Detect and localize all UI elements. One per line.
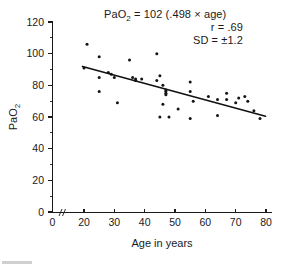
data-point: [225, 98, 228, 101]
scatter-plot-svg: PaO2 = 102 (.498 × age) r = .69 SD = ±1.…: [0, 0, 286, 267]
data-point: [189, 90, 192, 93]
data-point: [155, 79, 158, 82]
y-tick-label-60: 60: [32, 111, 44, 123]
data-point: [86, 43, 89, 46]
equation-rest: = 102 (.498 × age): [131, 8, 226, 20]
data-point: [161, 103, 164, 106]
y-tick-label-80: 80: [32, 79, 44, 91]
y-axis-title: PaO2: [7, 103, 22, 130]
data-point: [131, 76, 134, 79]
correlation-annotation: r = .69: [211, 21, 243, 33]
data-point: [192, 100, 195, 103]
data-point: [164, 93, 167, 96]
regression-line: [83, 66, 266, 116]
x-tick-label-40: 40: [139, 216, 151, 228]
x-axis: 0 20 30 40 50 60 70 80 Age in years: [50, 208, 272, 250]
x-tick-label-70: 70: [230, 216, 242, 228]
x-tick-label-0: 0: [50, 216, 56, 228]
y-tick-label-40: 40: [32, 142, 44, 154]
x-tick-label-60: 60: [199, 216, 211, 228]
data-point: [158, 116, 161, 119]
equation-prefix: PaO: [104, 8, 127, 20]
x-tick-label-80: 80: [260, 216, 272, 228]
data-point: [98, 90, 101, 93]
annotation-block: PaO2 = 102 (.498 × age) r = .69 SD = ±1.…: [104, 8, 243, 46]
data-point: [259, 117, 262, 120]
data-point: [158, 74, 161, 77]
chart-figure: PaO2 = 102 (.498 × age) r = .69 SD = ±1.…: [0, 0, 286, 267]
data-point: [216, 114, 219, 117]
data-point: [189, 81, 192, 84]
data-point: [207, 95, 210, 98]
data-point: [189, 117, 192, 120]
data-point: [128, 59, 131, 62]
y-tick-label-100: 100: [26, 47, 44, 59]
data-point: [116, 101, 119, 104]
y-axis: 120 100 80 60 40 20 0 PaO2: [7, 16, 53, 218]
y-tick-label-0: 0: [38, 206, 44, 218]
data-point: [246, 100, 249, 103]
data-point: [216, 98, 219, 101]
data-point: [168, 116, 171, 119]
std-dev-annotation: SD = ±1.2: [193, 34, 243, 46]
data-point: [225, 92, 228, 95]
y-tick-label-20: 20: [32, 174, 44, 186]
x-tick-label-50: 50: [169, 216, 181, 228]
scan-artifact: [2, 261, 32, 264]
y-tick-label-120: 120: [26, 16, 44, 28]
data-point: [140, 78, 143, 81]
equation-annotation: PaO2 = 102 (.498 × age): [104, 8, 226, 23]
x-tick-label-20: 20: [78, 216, 90, 228]
data-point: [243, 95, 246, 98]
data-point: [237, 97, 240, 100]
data-point: [155, 52, 158, 55]
data-point: [98, 55, 101, 58]
data-point: [252, 109, 255, 112]
data-point: [234, 101, 237, 104]
y-axis-title-subscript: 2: [13, 103, 22, 108]
data-point: [177, 108, 180, 111]
data-point: [113, 76, 116, 79]
data-point: [161, 84, 164, 87]
y-axis-title-text: PaO: [7, 108, 19, 130]
x-axis-title: Age in years: [131, 237, 193, 249]
data-point: [98, 76, 101, 79]
x-tick-label-30: 30: [108, 216, 120, 228]
